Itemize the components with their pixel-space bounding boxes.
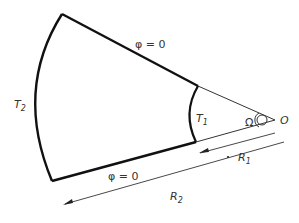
R2-arrowhead-icon [63,199,73,205]
origin-label: O [280,114,289,127]
T2-label: T2 [14,98,26,113]
R1-dimension-line [200,133,275,153]
top-boundary-edge [62,14,198,86]
phi-bottom-label: φ = 0 [108,170,138,183]
T1-label: T1 [196,112,208,127]
omega-label: Ω [245,116,253,129]
sector-diagram: φ = 0 φ = 0 T2 T1 Ω O R1 R2 [0,0,299,223]
bottom-inner-radius-line [196,120,275,142]
R2-label: R2 [170,190,183,205]
phi-top-label: φ = 0 [135,38,165,51]
R1-arrowhead-icon [199,148,209,153]
outer-arc-T2 [35,14,62,181]
R1-label: R1 [238,151,251,166]
